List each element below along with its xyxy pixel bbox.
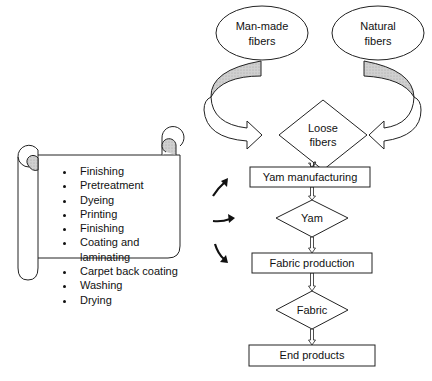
fabric-production-label: Fabric production [270, 257, 355, 269]
natural-fibers-node: Natural fibers [332, 6, 424, 60]
scroll-process-list: Finishing Pretreatment Dyeing Printing F… [62, 164, 206, 307]
fabric-label: Fabric [297, 304, 328, 316]
list-item: Coating and laminating [76, 235, 160, 264]
man-made-label-2: fibers [249, 35, 276, 47]
list-item: Carpet back coating [76, 264, 206, 278]
natural-label-1: Natural [360, 20, 395, 32]
loose-label-2: fibers [310, 136, 337, 148]
man-made-fibers-node: Man-made fibers [216, 6, 308, 60]
loose-label-1: Loose [308, 122, 338, 134]
curved-arrow-man-made-icon [204, 61, 262, 149]
arrow-right-icon [213, 214, 235, 223]
end-products-node: End products [249, 345, 375, 366]
arrow-up-right-icon [213, 178, 228, 196]
curved-arrow-natural-icon [364, 61, 421, 149]
list-item: Dyeing [76, 193, 206, 207]
list-item: Pretreatment [76, 178, 206, 192]
black-curved-arrows [213, 178, 235, 263]
natural-label-2: fibers [365, 35, 392, 47]
fabric-production-node: Fabric production [252, 253, 372, 273]
list-item: Finishing [76, 164, 206, 178]
end-products-label: End products [280, 349, 345, 361]
list-item: Finishing [76, 221, 206, 235]
arrow-down-right-icon [215, 244, 228, 263]
fabric-node: Fabric [276, 291, 348, 329]
list-item: Drying [76, 293, 206, 307]
list-item: Washing [76, 278, 206, 292]
list-item: Printing [76, 207, 206, 221]
yarn-manufacturing-label: Yam manufacturing [263, 171, 358, 183]
yarn-manufacturing-node: Yam manufacturing [250, 167, 370, 187]
loose-fibers-node: Loose fibers [279, 100, 367, 170]
yarn-node: Yam [276, 200, 348, 237]
yarn-label: Yam [301, 212, 323, 224]
man-made-label-1: Man-made [236, 20, 289, 32]
